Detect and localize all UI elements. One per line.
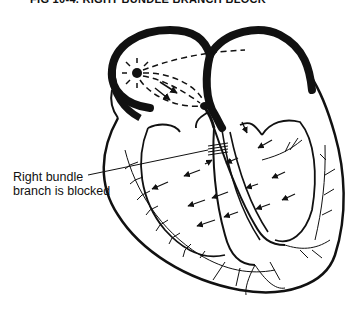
right-atrium-wall (112, 30, 210, 108)
sa-node (132, 68, 142, 78)
left-atrium-wall (210, 30, 312, 90)
left-ventricle-inner (262, 121, 315, 242)
septum-line-2 (230, 132, 268, 232)
tricuspid-leaflet-2 (196, 112, 208, 128)
internodal-pathways (140, 50, 245, 106)
tricuspid-leaflet (148, 125, 180, 132)
heart-diagram (0, 0, 357, 311)
